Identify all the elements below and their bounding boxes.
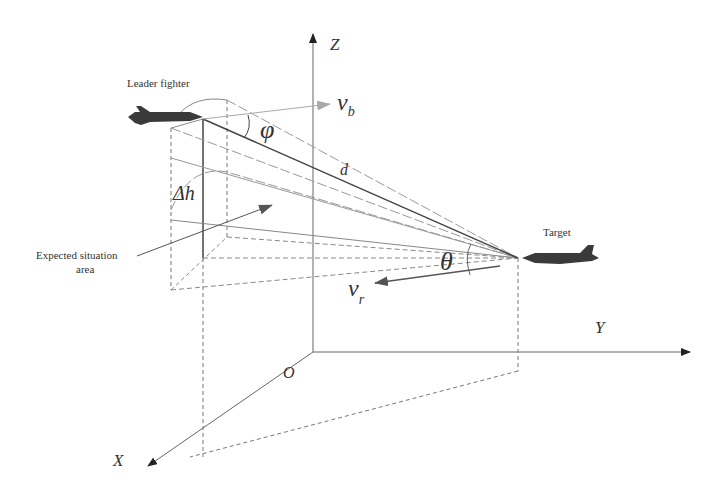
target-label: Target xyxy=(543,226,571,238)
vb-label: vb xyxy=(337,89,355,119)
z-axis-label: Z xyxy=(330,35,340,54)
vr-label: vr xyxy=(348,275,365,307)
delta-h-label: Δh xyxy=(172,182,195,204)
expected-area-label-line1: Expected situation xyxy=(36,249,118,261)
target-jet-icon xyxy=(522,245,599,264)
expected-area-label-line2: area xyxy=(76,263,94,275)
y-axis-label: Y xyxy=(595,318,606,337)
vr-arrow xyxy=(375,266,500,283)
x-axis-label: X xyxy=(112,451,124,470)
distance-label: d xyxy=(340,161,349,178)
phi-label: φ xyxy=(260,115,274,144)
axes: Z Y X O xyxy=(112,34,690,470)
origin-label: O xyxy=(283,364,295,381)
phi-arc xyxy=(244,115,249,138)
theta-label: θ xyxy=(440,247,453,276)
expected-area-pointer xyxy=(137,205,272,256)
leader-fighter-label: Leader fighter xyxy=(127,77,190,89)
expected-situation-box xyxy=(171,99,518,290)
situation-diagram: Z Y X O vb vr φ θ d Δh Leade xyxy=(0,0,718,493)
